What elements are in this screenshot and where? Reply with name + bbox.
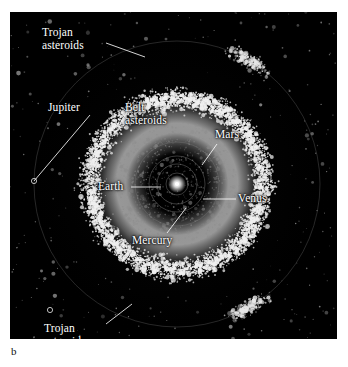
sun-marker <box>168 175 186 193</box>
figure-root: Trojan asteroids Jupiter Belt asteroids … <box>0 0 348 367</box>
asteroid-distribution-panel: Trojan asteroids Jupiter Belt asteroids … <box>10 12 337 339</box>
figure-caption-letter: b <box>11 345 17 358</box>
asteroid-scatter-plot <box>10 12 337 339</box>
